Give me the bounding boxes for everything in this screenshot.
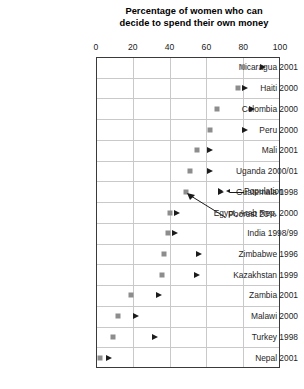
data-point-poorest-0 (241, 65, 246, 70)
data-point-poorest-13 (110, 334, 115, 339)
x-tick-label-0: 0 (94, 42, 99, 52)
category-label-uganda-2000-01: Uganda 2000/01 (208, 166, 304, 176)
data-point-population-4 (207, 147, 213, 153)
horizontal-gridline (97, 119, 279, 120)
data-point-population-2 (249, 106, 255, 112)
data-point-population-3 (242, 127, 248, 133)
horizontal-gridline (97, 78, 279, 79)
x-tick-label-20: 20 (128, 42, 138, 52)
data-point-population-0 (260, 64, 266, 70)
category-label-nepal-2001: Nepal 2001 (208, 353, 304, 363)
data-point-poorest-14 (97, 355, 102, 360)
vertical-gridline (133, 58, 134, 367)
horizontal-gridline (97, 285, 279, 286)
data-point-population-9 (196, 251, 202, 257)
category-label-india-1998-99: India 1998/99 (208, 228, 304, 238)
data-point-population-8 (172, 230, 178, 236)
data-point-population-13 (152, 334, 158, 340)
data-point-poorest-3 (208, 127, 213, 132)
category-label-haiti-2000: Haiti 2000 (208, 83, 304, 93)
data-point-poorest-7 (167, 210, 172, 215)
horizontal-gridline (97, 327, 279, 328)
chart-container: Percentage of women who can decide to sp… (0, 0, 304, 389)
category-label-zimbabwe-1996: Zimbabwe 1996 (208, 249, 304, 259)
horizontal-gridline (97, 347, 279, 348)
data-point-population-7 (174, 210, 180, 216)
chart-title-line-1: Percentage of women who can (88, 6, 300, 18)
data-point-poorest-4 (195, 148, 200, 153)
data-point-population-5 (207, 168, 213, 174)
category-label-colombia-2000: Colombia 2000 (208, 104, 304, 114)
category-label-nicaragua-2001: Nicaragua 2001 (208, 62, 304, 72)
horizontal-gridline (97, 223, 279, 224)
data-point-population-1 (242, 85, 248, 91)
x-axis-tick-labels: 020406080100 (0, 42, 304, 54)
category-label-turkey-1998: Turkey 1998 (208, 332, 304, 342)
data-point-poorest-10 (160, 272, 165, 277)
x-tick-label-60: 60 (202, 42, 212, 52)
horizontal-gridline (97, 161, 279, 162)
category-label-malawi-2000: Malawi 2000 (208, 311, 304, 321)
chart-title-line-2: decide to spend their own money (88, 18, 300, 30)
horizontal-gridline (97, 264, 279, 265)
category-label-peru-2000: Peru 2000 (208, 125, 304, 135)
data-point-poorest-9 (162, 251, 167, 256)
horizontal-gridline (97, 98, 279, 99)
horizontal-gridline (97, 140, 279, 141)
x-tick-label-100: 100 (273, 42, 287, 52)
poorest-legend-label: Poorest 20% (228, 209, 276, 219)
data-point-poorest-2 (215, 106, 220, 111)
data-point-poorest-5 (187, 169, 192, 174)
data-point-population-14 (106, 355, 112, 361)
horizontal-gridline (97, 306, 279, 307)
category-label-kazakhstan-1999: Kazakhstan 1999 (208, 270, 304, 280)
horizontal-gridline (97, 181, 279, 182)
chart-title: Percentage of women who can decide to sp… (88, 6, 300, 29)
x-tick-label-80: 80 (238, 42, 248, 52)
data-point-population-12 (133, 313, 139, 319)
data-point-poorest-11 (128, 293, 133, 298)
category-label-zambia-2001: Zambia 2001 (208, 290, 304, 300)
population-legend-leader-line (230, 192, 244, 193)
category-label-mali-2001: Mali 2001 (208, 145, 304, 155)
data-point-population-10 (194, 272, 200, 278)
population-legend-label: Population (244, 186, 284, 196)
data-point-poorest-12 (116, 314, 121, 319)
data-point-poorest-8 (165, 231, 170, 236)
data-point-population-11 (156, 292, 162, 298)
x-tick-label-40: 40 (165, 42, 175, 52)
poorest-legend-leader-line (187, 193, 227, 219)
horizontal-gridline (97, 244, 279, 245)
data-point-poorest-1 (235, 86, 240, 91)
